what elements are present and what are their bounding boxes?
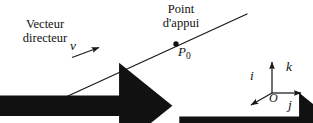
caption-support-point-line1: Point [145, 2, 217, 16]
vector-i-letter: i [250, 68, 254, 83]
label-point-p0-letter: P [178, 44, 186, 59]
label-vector-k: k [286, 57, 292, 75]
caption-direction-vector-line1: Vecteur [8, 17, 82, 31]
label-point-p0-subscript: 0 [186, 51, 191, 61]
label-vector-i: i [250, 66, 254, 84]
label-vector-j: j [288, 95, 292, 113]
direction-vector-arrow [72, 48, 99, 58]
math-figure-line-and-frame: Vecteur directeur Point d'appui v P0 Δ i [0, 0, 313, 123]
vector-j-letter: j [288, 97, 292, 112]
vector-j-glyph: j [288, 95, 292, 112]
vector-k-glyph: k [286, 57, 292, 74]
label-vector-v: v [70, 36, 76, 54]
vector-i-glyph: i [250, 66, 254, 83]
label-origin-o: O [269, 92, 278, 105]
label-line-delta: Δ [62, 97, 70, 112]
caption-support-point-line2: d'appui [145, 16, 217, 30]
label-point-p0: P0 [178, 45, 191, 61]
vector-v-letter: v [70, 38, 76, 53]
caption-support-point: Point d'appui [145, 2, 217, 30]
vector-v-glyph: v [70, 36, 76, 53]
vector-k-letter: k [286, 59, 292, 74]
